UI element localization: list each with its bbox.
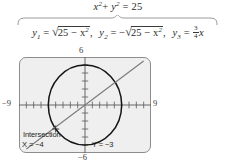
solved-form-y3: y3 = 34x — [173, 25, 204, 41]
y3-equals: = — [184, 27, 190, 38]
y2-comma: , — [163, 27, 166, 38]
equation-right-side: 25 — [131, 1, 142, 12]
solved-forms-row: y1 = √25 − x2, y2 = −√25 − x2, y3 = 34x — [0, 25, 236, 41]
fraction-numerator: 3 — [193, 25, 199, 32]
y2-equals: = — [110, 27, 116, 38]
y2-radicand: 25 − x2 — [131, 26, 163, 39]
equation-y-exponent: 2 — [116, 0, 120, 8]
x-axis-min-label: −9 — [2, 98, 11, 108]
underbrace-icon — [17, 15, 218, 25]
y1-equals: = — [43, 27, 49, 38]
radical-sign-icon: √ — [125, 25, 132, 39]
y-axis-max-label: 6 — [79, 45, 83, 55]
y3-subscript: 3 — [177, 33, 181, 41]
solved-form-y2: y2 = −√25 − x2, — [99, 26, 165, 41]
fraction-denominator: 4 — [193, 32, 199, 40]
y2-radical: √25 − x2 — [125, 26, 163, 39]
y1-radical: √25 − x2 — [52, 26, 90, 39]
textbook-figure: x2+ y2 = 25 y1 = √25 − x2, y2 = −√25 − x… — [0, 0, 236, 167]
y3-variable: x — [199, 27, 204, 38]
y3-fraction: 34 — [193, 25, 199, 40]
x-axis-max-label: 9 — [153, 98, 157, 108]
y1-radicand: 25 − x2 — [58, 26, 90, 39]
equation-equals-sign: = — [123, 1, 129, 12]
original-equation: x2+ y2 = 25 — [0, 1, 236, 12]
intersection-readout-y: Y = −3 — [92, 140, 113, 149]
equation-plus-sign: + — [102, 1, 108, 12]
y-axis-min-label: −6 — [78, 152, 87, 162]
y1-subscript: 1 — [37, 33, 41, 41]
y2-subscript: 2 — [104, 33, 108, 41]
intersection-readout-title: Intersection — [23, 130, 61, 139]
solved-form-y1: y1 = √25 − x2, — [32, 26, 92, 41]
intersection-readout-x: X = −4 — [22, 140, 44, 149]
radical-sign-icon: √ — [52, 25, 59, 39]
y1-comma: , — [90, 27, 93, 38]
